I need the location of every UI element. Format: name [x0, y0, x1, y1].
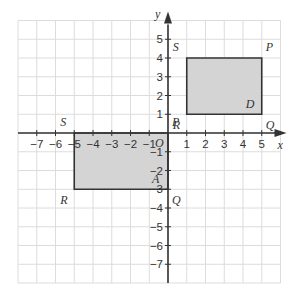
y-axis-arrow-icon — [164, 12, 172, 24]
x-tick-label: −3 — [105, 138, 118, 150]
vertex-label-p: P — [265, 40, 274, 54]
vertex-label-r: R — [59, 193, 68, 207]
vertex-label-p: P — [171, 115, 180, 129]
x-tick-label: −2 — [124, 138, 137, 150]
x-tick-label: 3 — [221, 138, 227, 150]
x-tick-label: 4 — [240, 138, 247, 150]
vertex-label-s: S — [60, 115, 66, 129]
y-tick-label: 4 — [157, 52, 164, 64]
x-tick-label: −6 — [49, 138, 62, 150]
y-tick-label: −4 — [150, 202, 164, 214]
shape-label-a: A — [151, 172, 160, 186]
y-tick-label: 5 — [157, 33, 163, 45]
vertex-label-q: Q — [266, 118, 275, 132]
x-tick-label: 1 — [184, 138, 190, 150]
y-tick-label: 3 — [157, 71, 163, 83]
x-tick-label: 5 — [259, 138, 265, 150]
y-tick-label: −5 — [150, 221, 163, 233]
y-tick-label: 1 — [157, 108, 163, 120]
x-tick-label: −5 — [68, 138, 81, 150]
origin-label: O — [155, 136, 164, 150]
y-tick-label: −7 — [150, 258, 163, 270]
x-tick-label: −7 — [30, 138, 43, 150]
vertex-label-s: S — [173, 40, 179, 54]
vertex-label-q: Q — [172, 193, 181, 207]
y-axis-label: y — [154, 7, 161, 21]
y-tick-label: 2 — [157, 90, 163, 102]
x-tick-label: 2 — [202, 138, 208, 150]
shape-label-d: D — [245, 97, 255, 111]
y-tick-label: −6 — [150, 240, 163, 252]
x-axis-label: x — [277, 138, 284, 152]
coordinate-grid-diagram: −7−6−5−4−3−2−11234554321−1−2−3−4−5−6−7 D… — [0, 0, 294, 299]
x-tick-label: −4 — [86, 138, 100, 150]
